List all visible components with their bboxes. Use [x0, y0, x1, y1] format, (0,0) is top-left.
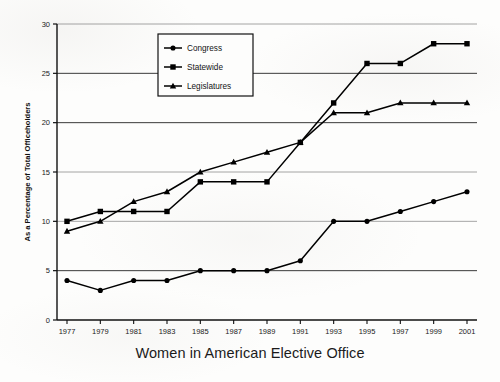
y-axis-title-text: As a Percentage of Total Officeholders: [23, 102, 32, 241]
data-point-marker-square: [464, 41, 469, 46]
data-point-marker-square: [398, 61, 403, 66]
y-tick-label: 15: [42, 168, 50, 177]
x-tick-label: 1995: [359, 327, 376, 336]
data-point-marker-circle: [198, 268, 203, 273]
x-tick-label: 1997: [392, 327, 409, 336]
legend-label: Legislatures: [187, 82, 231, 91]
data-point-marker-square: [264, 179, 269, 184]
x-tick-label: 1983: [159, 327, 176, 336]
legend-label: Congress: [187, 44, 222, 53]
x-tick-label: 1985: [192, 327, 209, 336]
data-point-marker-circle: [64, 278, 69, 283]
x-tick-label: 1979: [92, 327, 109, 336]
series-congress: [64, 189, 469, 293]
x-tick-label: 1981: [125, 327, 142, 336]
data-point-marker-square: [131, 209, 136, 214]
gridlines-group: [57, 24, 477, 271]
series-line: [67, 192, 467, 291]
data-point-marker-square: [98, 209, 103, 214]
y-axis-title: As a Percentage of Total Officeholders: [23, 102, 32, 241]
data-point-marker-circle: [464, 189, 469, 194]
x-tick-label: 1989: [259, 327, 276, 336]
series-legislatures: [64, 100, 470, 234]
data-series-group: [64, 41, 470, 293]
x-tick-label: 1993: [325, 327, 342, 336]
data-point-marker-square: [431, 41, 436, 46]
data-point-marker-circle: [131, 278, 136, 283]
data-point-marker-circle: [331, 219, 336, 224]
x-tick-label: 1977: [59, 327, 76, 336]
line-chart: 051015202530 197719791981198319851987198…: [0, 0, 500, 345]
y-tick-label: 30: [42, 20, 50, 29]
data-point-marker-square: [364, 61, 369, 66]
data-point-marker-circle: [231, 268, 236, 273]
chart-caption: Women in American Elective Office: [0, 345, 500, 361]
x-tick-label: 2001: [459, 327, 476, 336]
data-point-marker-circle: [364, 219, 369, 224]
y-tick-label: 25: [42, 69, 50, 78]
data-point-marker-circle: [398, 209, 403, 214]
y-axis-ticks-group: 051015202530: [42, 20, 57, 325]
series-statewide: [64, 41, 469, 224]
data-point-marker-circle: [264, 268, 269, 273]
data-point-marker-square: [170, 64, 175, 69]
data-point-marker-circle: [164, 278, 169, 283]
data-point-marker-square: [231, 179, 236, 184]
data-point-marker-circle: [170, 45, 175, 50]
data-point-marker-circle: [98, 288, 103, 293]
y-tick-label: 5: [46, 266, 50, 275]
x-tick-label: 1999: [425, 327, 442, 336]
data-point-marker-circle: [298, 258, 303, 263]
data-point-marker-square: [64, 219, 69, 224]
x-tick-label: 1987: [225, 327, 242, 336]
y-tick-label: 0: [46, 316, 50, 325]
series-line: [67, 44, 467, 222]
x-axis-ticks-group: 1977197919811983198519871989199119931995…: [59, 320, 476, 336]
chart-legend: CongressStatewideLegislatures: [158, 34, 253, 96]
chart-page: 051015202530 197719791981198319851987198…: [0, 0, 500, 382]
data-point-marker-square: [198, 179, 203, 184]
data-point-marker-circle: [431, 199, 436, 204]
y-tick-label: 20: [42, 118, 50, 127]
x-tick-label: 1991: [292, 327, 309, 336]
y-tick-label: 10: [42, 217, 50, 226]
data-point-marker-square: [164, 209, 169, 214]
data-point-marker-square: [331, 100, 336, 105]
legend-label: Statewide: [187, 63, 223, 72]
